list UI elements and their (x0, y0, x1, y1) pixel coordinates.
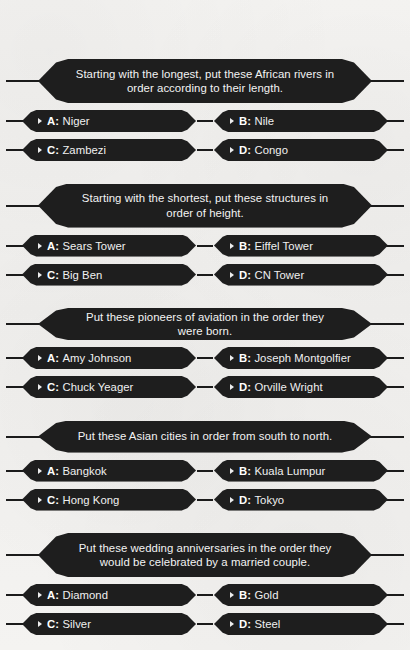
quiz-page: FASTEST FINGER FIRST 41 Starting with th… (0, 0, 410, 650)
answer-letter: D: (239, 618, 251, 630)
questions-list: 41 Starting with the longest, put these … (0, 45, 410, 637)
answer-option-d[interactable]: D: Steel (214, 613, 388, 635)
answer-text: Nile (254, 115, 274, 127)
answer-row: C: Hong Kong D: Tokyo (6, 488, 404, 512)
answer-row: C: Zambezi D: Congo (6, 138, 404, 162)
answer-text: Silver (62, 618, 91, 630)
arrow-right-icon (38, 243, 42, 249)
answer-text: Congo (254, 144, 288, 156)
connector-line-middle (197, 594, 213, 596)
arrow-right-icon (38, 355, 42, 361)
answer-letter: C: (47, 618, 59, 630)
answer-text: Amy Johnson (62, 352, 131, 364)
answer-letter: A: (47, 115, 59, 127)
answer-row: A: Niger B: Nile (6, 109, 404, 133)
question-banner-body: Put these wedding anniversaries in the o… (38, 533, 372, 577)
connector-line-middle (197, 245, 213, 247)
question-banner-body: Starting with the longest, put these Afr… (38, 59, 372, 103)
answer-option-c[interactable]: C: Zambezi (22, 139, 196, 161)
answer-option-d[interactable]: D: CN Tower (214, 264, 388, 286)
question-number: 43 (0, 294, 410, 305)
answer-text: Big Ben (62, 269, 102, 281)
question-block: 45 Put these wedding anniversaries in th… (0, 519, 410, 637)
answer-option-c[interactable]: C: Silver (22, 613, 196, 635)
answer-letter: B: (239, 589, 251, 601)
answer-letter: C: (47, 269, 59, 281)
arrow-right-icon (230, 147, 234, 153)
arrow-right-icon (230, 118, 234, 124)
answer-text: Zambezi (62, 144, 106, 156)
arrow-right-icon (38, 468, 42, 474)
answer-letter: C: (47, 494, 59, 506)
arrow-right-icon (38, 497, 42, 503)
answer-letter: A: (47, 240, 59, 252)
answer-option-d[interactable]: D: Orville Wright (214, 376, 388, 398)
answer-option-a[interactable]: A: Diamond (22, 584, 196, 606)
arrow-right-icon (38, 272, 42, 278)
connector-line-middle (197, 149, 213, 151)
arrow-right-icon (230, 497, 234, 503)
question-number: 41 (0, 45, 410, 56)
answer-letter: A: (47, 589, 59, 601)
connector-line-middle (197, 120, 213, 122)
answer-option-b[interactable]: B: Kuala Lumpur (214, 460, 388, 482)
answer-letter: A: (47, 352, 59, 364)
answer-text: Orville Wright (254, 381, 322, 393)
answer-row: A: Sears Tower B: Eiffel Tower (6, 234, 404, 258)
question-banner-body: Starting with the shortest, put these st… (38, 184, 372, 228)
answer-option-c[interactable]: C: Big Ben (22, 264, 196, 286)
arrow-right-icon (230, 621, 234, 627)
answer-option-a[interactable]: A: Bangkok (22, 460, 196, 482)
answer-text: Kuala Lumpur (254, 465, 325, 477)
arrow-right-icon (230, 592, 234, 598)
arrow-right-icon (230, 243, 234, 249)
arrow-right-icon (38, 384, 42, 390)
answer-text: Gold (254, 589, 278, 601)
question-banner-body: Put these pioneers of aviation in the or… (38, 308, 372, 340)
answer-option-b[interactable]: B: Joseph Montgolfier (214, 347, 388, 369)
answer-letter: A: (47, 465, 59, 477)
answer-option-a[interactable]: A: Sears Tower (22, 235, 196, 257)
arrow-right-icon (230, 468, 234, 474)
question-text: Put these pioneers of aviation in the or… (38, 310, 372, 338)
question-text: Put these wedding anniversaries in the o… (38, 541, 372, 569)
question-block: 43 Put these pioneers of aviation in the… (0, 294, 410, 400)
answer-option-c[interactable]: C: Chuck Yeager (22, 376, 196, 398)
question-number: 44 (0, 406, 410, 417)
arrow-right-icon (38, 621, 42, 627)
answer-option-c[interactable]: C: Hong Kong (22, 489, 196, 511)
answer-text: Bangkok (62, 465, 106, 477)
answer-text: Sears Tower (62, 240, 125, 252)
answer-letter: B: (239, 240, 251, 252)
answer-text: Chuck Yeager (62, 381, 133, 393)
answer-option-b[interactable]: B: Nile (214, 110, 388, 132)
answer-letter: C: (47, 381, 59, 393)
answer-letter: C: (47, 144, 59, 156)
answer-option-a[interactable]: A: Amy Johnson (22, 347, 196, 369)
connector-line-middle (197, 274, 213, 276)
arrow-right-icon (38, 118, 42, 124)
answer-letter: D: (239, 144, 251, 156)
answer-letter: B: (239, 465, 251, 477)
question-block: 42 Starting with the shortest, put these… (0, 169, 410, 287)
answer-text: Hong Kong (62, 494, 119, 506)
question-banner: Starting with the shortest, put these st… (6, 183, 404, 229)
arrow-right-icon (38, 592, 42, 598)
answer-option-d[interactable]: D: Congo (214, 139, 388, 161)
connector-line-middle (197, 386, 213, 388)
answer-option-d[interactable]: D: Tokyo (214, 489, 388, 511)
question-text: Starting with the shortest, put these st… (38, 191, 372, 219)
answer-letter: D: (239, 381, 251, 393)
arrow-right-icon (230, 355, 234, 361)
answer-row: A: Bangkok B: Kuala Lumpur (6, 459, 404, 483)
question-text: Put these Asian cities in order from sou… (44, 429, 367, 443)
answer-text: Tokyo (254, 494, 284, 506)
answer-text: Diamond (62, 589, 108, 601)
answer-option-b[interactable]: B: Gold (214, 584, 388, 606)
question-banner: Starting with the longest, put these Afr… (6, 58, 404, 104)
answer-option-b[interactable]: B: Eiffel Tower (214, 235, 388, 257)
answer-option-a[interactable]: A: Niger (22, 110, 196, 132)
question-number: 42 (0, 169, 410, 180)
answer-text: Steel (254, 618, 280, 630)
connector-line-middle (197, 357, 213, 359)
